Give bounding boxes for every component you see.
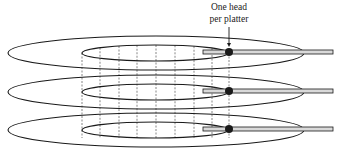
- platter: [8, 113, 333, 147]
- head-annotation: One head per platter: [203, 1, 255, 25]
- actuator-arm: [203, 127, 333, 131]
- read-write-head-icon: [225, 48, 233, 56]
- platter: [8, 36, 333, 70]
- actuator-arm: [203, 89, 333, 93]
- annotation-line-1: One head: [203, 1, 255, 13]
- actuator-arm: [203, 50, 333, 54]
- arrow-head-icon: [227, 43, 231, 47]
- disk-platters-diagram: [0, 0, 338, 149]
- annotation-line-2: per platter: [203, 13, 255, 25]
- read-write-head-icon: [225, 125, 233, 133]
- read-write-head-icon: [225, 87, 233, 95]
- platter: [8, 75, 333, 109]
